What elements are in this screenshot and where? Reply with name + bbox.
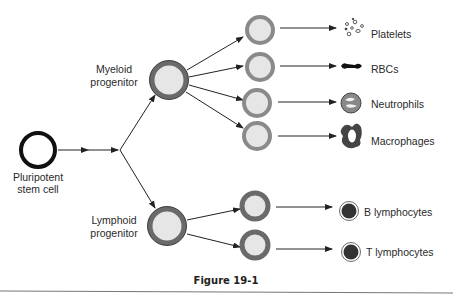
lymphoid-progenitor	[148, 207, 187, 246]
hematopoiesis-diagram: Pluripotent stem cell Myeloid progenitor…	[0, 0, 453, 294]
arrow	[120, 95, 155, 150]
rbcs-label: RBCs	[371, 63, 398, 75]
intermediate-cells	[242, 17, 273, 258]
platelets-icon	[345, 18, 363, 36]
arrow	[187, 234, 240, 247]
myeloid-label-1: Myeloid	[96, 63, 132, 75]
lymphoid-label-2: progenitor	[90, 227, 138, 239]
stem-cell	[21, 133, 55, 167]
myeloid-label-2: progenitor	[90, 76, 138, 88]
stem-label-2: stem cell	[17, 183, 58, 195]
figure-caption: Figure 19-1	[194, 275, 259, 286]
arrow	[189, 66, 243, 77]
t-lymphocytes-label: T lymphocytes	[366, 246, 434, 258]
macrophages-label: Macrophages	[371, 135, 435, 147]
platelets-label: Platelets	[371, 28, 411, 40]
macrophage-icon	[341, 124, 362, 149]
lymphoid-label-1: Lymphoid	[91, 214, 136, 226]
b-lymphocytes-label: B lymphocytes	[364, 206, 432, 218]
arrow	[187, 37, 243, 70]
neutrophil-icon	[341, 93, 361, 113]
divider	[0, 291, 453, 293]
neutrophils-label: Neutrophils	[371, 98, 424, 110]
arrow	[120, 150, 155, 208]
arrow	[187, 209, 240, 220]
b-lymphocyte-icon	[340, 202, 359, 221]
stem-label-1: Pluripotent	[13, 171, 63, 183]
rbc-icon	[341, 63, 362, 68]
arrow	[189, 85, 243, 100]
myeloid-progenitor	[150, 61, 189, 100]
t-lymphocyte-icon	[342, 243, 361, 262]
